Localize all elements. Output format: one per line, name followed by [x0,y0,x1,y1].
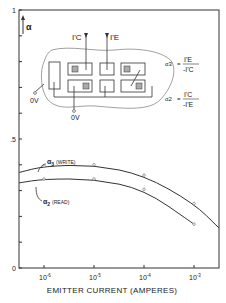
y-axis-label: α [26,22,32,32]
ground-terminal-icon [34,92,37,95]
y-axis-arrowhead-icon [21,15,25,20]
formula-lhs: α2 [165,96,172,102]
ground-label: 0V [30,97,39,104]
leader-line [36,187,42,201]
diagram-cell [68,63,92,75]
alpha-vs-emitter-current-chart: 0.51 10-610-510-410-3 α I'C I'E 0V [0,0,226,303]
data-point [143,174,146,177]
data-point [93,164,96,167]
y-tick-label: 1 [12,7,16,14]
current-arrow-icon [84,33,88,38]
diagram-contact [83,83,89,89]
circuit-diagram: I'C I'E 0V 0V [30,33,174,121]
diagram-contact [72,66,78,72]
data-point [193,223,196,226]
data-point [143,188,146,191]
formula-alpha2: α2 = I'C -I'E [165,91,199,108]
series-line-alpha3-write [19,165,219,228]
diagram-outline [41,48,173,108]
data-point [93,178,96,181]
series-curves: α3(WRITE)α2(READ) [19,158,219,228]
formula-denominator: -I'C [183,66,194,73]
ground-label: 0V [71,114,80,121]
ground-terminal-icon [73,110,76,113]
current-arrow-icon [105,33,109,38]
formula-numerator: I'C [184,91,192,98]
current-label-ic: I'C [72,33,82,42]
formula-alpha3: α3 = I'E -I'C [165,56,199,73]
diagram-contact [136,83,142,89]
formula-equals: = [177,96,181,102]
current-label-ie: I'E [110,33,119,42]
data-point [193,202,196,205]
plot-frame [19,10,219,268]
formula-lhs: α3 [165,61,172,67]
y-ticks: 0.51 [10,7,22,272]
x-ticks: 10-610-510-410-3 [39,265,201,281]
x-tick-label: 10-5 [89,273,101,281]
formula-numerator: I'E [184,56,192,63]
x-tick-label: 10-6 [39,273,51,281]
axes [19,10,219,268]
formula-equals: = [177,61,181,67]
formula-denominator: -I'E [183,101,194,108]
diagram-cell [49,62,60,89]
y-tick-label: 0 [12,265,16,272]
diagram-contact [124,66,130,72]
x-tick-label: 10-4 [139,273,151,281]
series-label: α2(READ) [43,198,70,207]
data-point [43,178,46,181]
y-tick-label: .5 [10,136,16,143]
x-tick-label: 10-3 [189,273,201,281]
y-axis-symbol: α [21,15,32,34]
diagram-cell [100,80,114,92]
x-axis-title: EMITTER CURRENT (AMPERES) [47,286,178,295]
